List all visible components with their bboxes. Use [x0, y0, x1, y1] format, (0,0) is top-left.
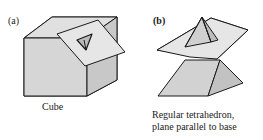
panel-b-caption-line2: plane parallel to base: [152, 121, 237, 133]
panel-a-label: (a): [8, 15, 19, 26]
panel-b-caption-line1: Regular tetrahedron,: [152, 109, 234, 121]
cube: [24, 17, 125, 96]
panel-b-label: (b): [153, 15, 165, 26]
panel-a-caption: Cube: [42, 101, 63, 113]
pyramid: [157, 17, 248, 96]
